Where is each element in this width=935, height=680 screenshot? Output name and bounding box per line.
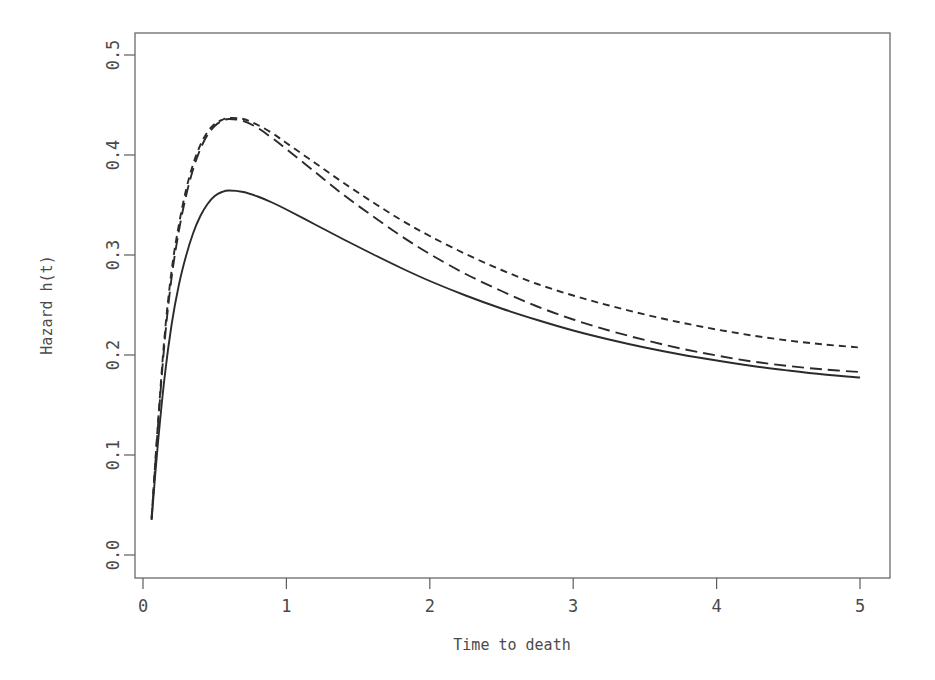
y-axis-ticks: 0.00.10.20.30.40.5 bbox=[103, 40, 135, 571]
y-tick-label: 0.5 bbox=[103, 40, 123, 71]
series-solid bbox=[152, 191, 860, 521]
x-tick-label: 1 bbox=[281, 596, 291, 616]
y-tick-label: 0.2 bbox=[103, 340, 123, 371]
y-tick-label: 0.4 bbox=[103, 140, 123, 171]
x-tick-label: 5 bbox=[855, 596, 865, 616]
y-tick-label: 0.0 bbox=[103, 540, 123, 571]
x-tick-label: 4 bbox=[711, 596, 721, 616]
plot-frame bbox=[135, 33, 890, 578]
x-tick-label: 2 bbox=[425, 596, 435, 616]
chart-figure: 0.00.10.20.30.40.5 012345 Time to death … bbox=[0, 0, 935, 680]
x-tick-label: 0 bbox=[138, 596, 148, 616]
y-tick-label: 0.1 bbox=[103, 440, 123, 471]
x-tick-label: 3 bbox=[568, 596, 578, 616]
x-axis-title: Time to death bbox=[453, 636, 570, 654]
x-axis-ticks: 012345 bbox=[138, 578, 865, 616]
y-tick-label: 0.3 bbox=[103, 240, 123, 271]
hazard-line-chart: 0.00.10.20.30.40.5 012345 Time to death … bbox=[0, 0, 935, 680]
series-upper-dashed bbox=[152, 118, 860, 518]
y-axis-title: Hazard h(t) bbox=[38, 255, 56, 354]
data-series-group bbox=[152, 118, 860, 520]
series-middle-dashed bbox=[152, 119, 860, 519]
